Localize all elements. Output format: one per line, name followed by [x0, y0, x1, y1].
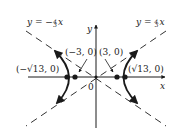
vertex-left-pointer-arrow — [79, 59, 87, 72]
focus-right-point — [122, 74, 127, 79]
vertex-right-label: (3, 0) — [99, 47, 123, 57]
focus-left-label: (−√13, 0) — [16, 64, 59, 74]
vertex-left-label: (−3, 0) — [65, 47, 97, 57]
hyperbola-diagram: y = −43x y = 43x y x 0 (−√13, 0) (−3, 0)… — [0, 0, 176, 134]
y-axis-label: y — [86, 24, 93, 34]
origin-label: 0 — [88, 82, 94, 92]
asymptote-positive-label: y = 43x — [135, 17, 165, 28]
vertex-left-point — [72, 74, 77, 79]
vertex-right-pointer-arrow — [105, 59, 113, 72]
x-axis-label: x — [160, 81, 165, 91]
asymptote-negative-label: y = −43x — [26, 17, 63, 28]
vertex-right-point — [114, 74, 119, 79]
focus-right-label: (√13, 0) — [128, 64, 164, 74]
focus-left-point — [64, 74, 69, 79]
origin-point — [94, 75, 97, 78]
